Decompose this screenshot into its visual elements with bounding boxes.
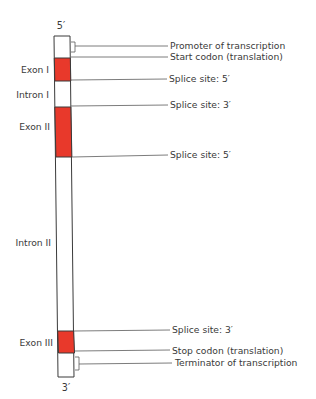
annotation-splice-3-1: Splice site: 3′ [170, 99, 231, 110]
gene-bar [54, 36, 75, 377]
label-intron-2: Intron II [16, 237, 52, 248]
three-prime-label: 3′ [62, 382, 70, 393]
leader-lines [71, 42, 172, 370]
leader-splice-3-2 [74, 330, 170, 331]
annotation-splice-5-2: Splice site: 5′ [170, 149, 231, 160]
leader-terminator [79, 363, 172, 364]
exon-1-block [54, 58, 71, 81]
terminator-bracket [75, 357, 79, 370]
leader-stop-codon [75, 350, 170, 351]
annotation-terminator: Terminator of transcription [174, 357, 298, 368]
region-labels: Exon I Intron I Exon II Intron II Exon I… [16, 64, 54, 348]
gene-diagram-canvas: 5′ 3′ Exon I Intron I Exon II Intron II … [0, 0, 316, 399]
label-exon-1: Exon I [21, 64, 49, 75]
label-exon-2: Exon II [19, 121, 50, 132]
annotations: Promoter of transcription Start codon (t… [169, 40, 298, 368]
annotation-promoter: Promoter of transcription [170, 40, 285, 51]
annotation-start-codon: Start codon (translation) [170, 51, 283, 62]
gene-structure-diagram: 5′ 3′ Exon I Intron I Exon II Intron II … [0, 0, 316, 399]
leader-splice-3-1 [71, 105, 168, 106]
five-prime-label: 5′ [57, 20, 65, 31]
annotation-splice-3-2: Splice site: 3′ [172, 324, 233, 335]
leader-splice-5-1 [71, 79, 167, 80]
annotation-stop-codon: Stop codon (translation) [172, 345, 283, 356]
exon-2-block [55, 107, 72, 157]
exon-3-block [58, 331, 75, 353]
leader-splice-5-2 [72, 155, 168, 157]
label-exon-3: Exon III [20, 337, 53, 348]
annotation-splice-5-1: Splice site: 5′ [169, 73, 230, 84]
label-intron-1: Intron I [16, 89, 49, 100]
promoter-bracket [71, 42, 75, 52]
gene-bar-outline [54, 36, 74, 377]
